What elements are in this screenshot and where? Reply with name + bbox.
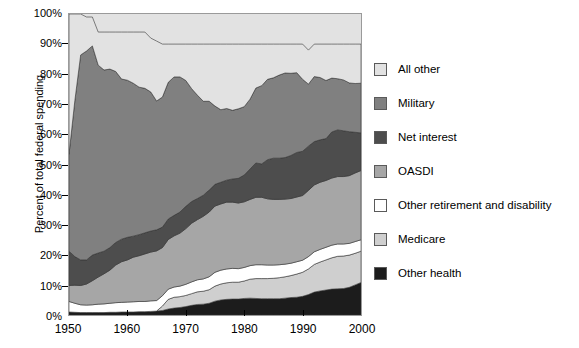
y-axis-tick-label: 100% [28,7,62,19]
x-axis-tick-label: 1990 [290,322,317,336]
y-axis-tick-label: 20% [28,249,62,261]
legend-swatch-icon [374,199,387,212]
legend-item[interactable]: Other retirement and disability [374,188,579,222]
y-axis-tick-mark [62,74,68,75]
y-axis-tick-mark [62,104,68,105]
y-axis-tick-label: 30% [28,219,62,231]
y-axis-tick-mark [62,255,68,256]
y-axis-tick-label: 0% [28,310,62,322]
y-axis-tick-label: 10% [28,280,62,292]
legend-swatch-icon [374,131,387,144]
x-axis-tick-mark [244,310,245,316]
legend-item[interactable]: Other health [374,256,579,290]
legend-item[interactable]: Medicare [374,222,579,256]
y-axis-tick-mark [62,225,68,226]
legend-swatch-icon [374,63,387,76]
x-axis-tick-label: 1960 [113,322,140,336]
y-axis-tick-label: 70% [28,98,62,110]
y-axis-tick-label: 60% [28,128,62,140]
y-axis-tick-mark [62,134,68,135]
legend-item-label: All other [398,63,440,75]
legend-swatch-icon [374,97,387,110]
chart-root: Percent of total federal spending 0%10%2… [0,0,579,348]
legend-item[interactable]: Net interest [374,120,579,154]
y-axis-labels: 0%10%20%30%40%50%60%70%80%90%100% [0,0,62,348]
legend-item-label: Net interest [398,131,457,143]
x-axis-tick-label: 1950 [55,322,82,336]
chart-legend: All otherMilitaryNet interestOASDIOther … [374,52,579,290]
legend-item[interactable]: All other [374,52,579,86]
legend-swatch-icon [374,233,387,246]
legend-item-label: Military [398,97,434,109]
legend-item-label: OASDI [398,165,434,177]
x-axis-tick-mark [186,310,187,316]
legend-item-label: Medicare [398,233,445,245]
legend-swatch-icon [374,165,387,178]
x-axis-tick-label: 2000 [349,322,376,336]
legend-item-label: Other health [398,267,461,279]
y-axis-tick-label: 50% [28,159,62,171]
y-axis-tick-mark [62,43,68,44]
legend-item[interactable]: OASDI [374,154,579,188]
x-axis-tick-label: 1980 [231,322,258,336]
y-axis-tick-label: 80% [28,68,62,80]
x-axis-tick-mark [303,310,304,316]
legend-swatch-icon [374,267,387,280]
plot-area [68,13,362,316]
y-axis-tick-mark [62,165,68,166]
x-axis-tick-mark [127,310,128,316]
y-axis-tick-label: 90% [28,37,62,49]
legend-item[interactable]: Military [374,86,579,120]
y-axis-tick-label: 40% [28,189,62,201]
y-axis-tick-mark [62,286,68,287]
legend-item-label: Other retirement and disability [398,199,551,211]
y-axis-tick-mark [62,195,68,196]
x-axis-tick-label: 1970 [172,322,199,336]
stacked-area-svg [69,14,361,315]
